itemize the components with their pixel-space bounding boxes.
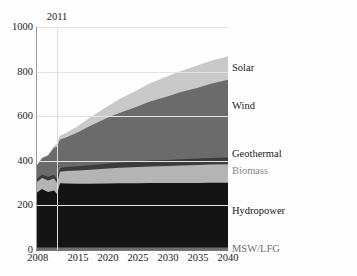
chart-figure: 02004006008001000 2008201520202025203020…	[0, 0, 357, 276]
series-label-msw-lfg: MSW/LFG	[232, 243, 280, 254]
series-label-solar: Solar	[232, 62, 254, 73]
series-label-wind: Wind	[232, 100, 255, 111]
series-label-hydropower: Hydropower	[232, 205, 285, 216]
series-labels: SolarWindGeothermalBiomassHydropowerMSW/…	[0, 0, 357, 276]
series-label-geothermal: Geothermal	[232, 148, 282, 159]
annotation-2011-line	[57, 27, 58, 250]
series-label-biomass: Biomass	[232, 165, 268, 176]
